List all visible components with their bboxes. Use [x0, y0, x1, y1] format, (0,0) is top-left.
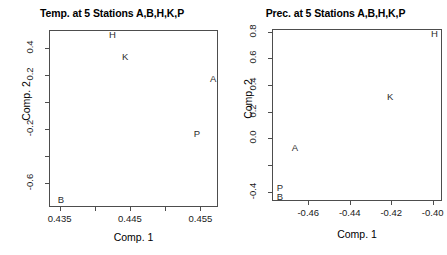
y-axis-tick [268, 192, 272, 193]
y-axis-tick-label: 0.4 [17, 42, 43, 52]
panel-title: Temp. at 5 Stations A,B,H,K,P [0, 7, 224, 19]
x-axis-tick [200, 207, 201, 211]
y-axis-title: Comp. 2 [228, 93, 268, 105]
y-axis-tick-label: -0.2 [17, 123, 43, 133]
chart-panel-precipitation: Prec. at 5 Stations A,B,H,K,P -0.46-0.44… [224, 0, 447, 255]
data-point-label: A [292, 143, 298, 153]
y-axis-tick [268, 165, 272, 166]
x-axis-tick-label: 0.435 [48, 214, 72, 224]
y-axis-tick-label: -0.4 [240, 186, 266, 196]
data-point-label: H [431, 30, 438, 40]
data-point-label: B [277, 192, 283, 202]
x-axis-tick-label: 0.445 [118, 214, 142, 224]
y-axis-tick [268, 58, 272, 59]
y-axis-tick [45, 156, 49, 157]
y-axis-tick-label: -0.6 [17, 177, 43, 187]
y-axis-tick [268, 112, 272, 113]
x-axis-tick-label: -0.40 [422, 208, 444, 218]
x-axis-tick-label: -0.46 [297, 208, 319, 218]
data-point-label: H [109, 31, 116, 41]
y-axis-title: Comp. 2 [6, 95, 46, 107]
x-axis-tick [350, 201, 351, 205]
y-axis-tick [45, 183, 49, 184]
x-axis-tick [433, 201, 434, 205]
y-axis-tick-label: 0.6 [240, 52, 266, 62]
x-axis-tick [391, 201, 392, 205]
data-point-label: K [387, 92, 393, 102]
y-axis-tick [268, 32, 272, 33]
data-point-label: A [210, 74, 216, 84]
x-axis-tick [165, 207, 166, 211]
x-axis-tick [95, 207, 96, 211]
plot-area [49, 30, 218, 207]
chart-panel-temperature: Temp. at 5 Stations A,B,H,K,P 0.4350.445… [0, 0, 224, 255]
x-axis-tick [60, 207, 61, 211]
y-axis-tick-label: 0.8 [240, 26, 266, 36]
y-axis-tick [268, 85, 272, 86]
plot-area [272, 29, 442, 201]
x-axis-tick-label: -0.44 [339, 208, 361, 218]
data-point-label: P [194, 129, 200, 139]
x-axis-title: Comp. 1 [337, 228, 377, 240]
y-axis-tick [45, 48, 49, 49]
x-axis-tick-label: 0.455 [189, 214, 213, 224]
x-axis-tick [308, 201, 309, 205]
y-axis-tick [45, 75, 49, 76]
y-axis-tick-label: 0.2 [17, 69, 43, 79]
data-point-label: B [58, 195, 64, 205]
y-axis-tick [45, 129, 49, 130]
x-axis-tick [130, 207, 131, 211]
x-axis-title: Comp. 1 [114, 231, 154, 243]
data-point-label: K [122, 52, 128, 62]
y-axis-tick [268, 138, 272, 139]
y-axis-tick-label: 0.0 [240, 132, 266, 142]
figure-canvas: Temp. at 5 Stations A,B,H,K,P 0.4350.445… [0, 0, 447, 255]
x-axis-tick-label: -0.42 [380, 208, 402, 218]
